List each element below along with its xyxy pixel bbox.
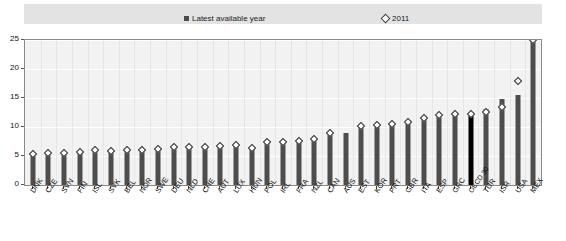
y-tick-label: 10 <box>10 122 19 130</box>
bar-ita <box>421 119 426 185</box>
bar-mex <box>531 40 536 185</box>
bar-isr <box>499 99 504 185</box>
bar-group <box>369 40 385 185</box>
bar-group <box>463 40 479 185</box>
x-axis-labels: DNKCZESVNFINISLSVKBELNORSWEDEUNLDCHEAUTL… <box>24 190 542 241</box>
bar-group <box>525 40 541 185</box>
bar-series-group <box>25 40 541 185</box>
bar-group <box>353 40 369 185</box>
bar-prt <box>390 126 395 185</box>
plot-area <box>24 39 542 186</box>
bar-group <box>181 40 197 185</box>
bar-group <box>56 40 72 185</box>
bar-group <box>400 40 416 185</box>
bar-group <box>447 40 463 185</box>
bar-group <box>510 40 526 185</box>
bar-can <box>327 135 332 185</box>
legend-item-2011: 2011 <box>382 11 409 25</box>
bar-esp <box>437 117 442 185</box>
bar-kor <box>374 127 379 185</box>
bar-group <box>338 40 354 185</box>
bar-oecd-30 <box>468 114 473 185</box>
bar-group <box>197 40 213 185</box>
legend-item-latest-available-year: Latest available year <box>184 11 265 25</box>
legend-square-marker-icon <box>184 16 189 21</box>
y-tick-label: 5 <box>15 151 19 159</box>
diamond-marker-usa <box>513 76 521 84</box>
bar-group <box>103 40 119 185</box>
y-tick-label: 25 <box>10 35 19 43</box>
legend-diamond-marker-icon <box>381 13 391 23</box>
bar-grc <box>452 115 457 185</box>
bar-group <box>385 40 401 185</box>
bar-group <box>322 40 338 185</box>
y-tick-label: 15 <box>10 93 19 101</box>
bar-group <box>275 40 291 185</box>
bar-group <box>416 40 432 185</box>
diamond-marker-aut <box>216 141 224 149</box>
bar-est <box>359 128 364 185</box>
bar-group <box>213 40 229 185</box>
legend-label: 2011 <box>392 14 409 23</box>
bar-usa <box>515 95 520 185</box>
y-axis: 0510152025 <box>0 34 24 192</box>
bar-group <box>291 40 307 185</box>
bar-group <box>25 40 41 185</box>
legend-label: Latest available year <box>192 14 265 23</box>
bar-group <box>150 40 166 185</box>
bar-group <box>494 40 510 185</box>
y-tick-label: 0 <box>15 180 19 188</box>
y-tick-label: 20 <box>10 64 19 72</box>
bar-irl <box>280 142 285 185</box>
chart-container: Latest available year 2011 0510152025 DN… <box>0 0 566 241</box>
bar-group <box>306 40 322 185</box>
bar-group <box>228 40 244 185</box>
bar-group <box>478 40 494 185</box>
bar-group <box>88 40 104 185</box>
chart-legend: Latest available year 2011 <box>24 4 542 24</box>
bar-group <box>119 40 135 185</box>
bar-group <box>166 40 182 185</box>
bar-gbr <box>406 124 411 185</box>
bar-group <box>72 40 88 185</box>
bar-group <box>134 40 150 185</box>
diamond-marker-cze <box>44 148 52 156</box>
bar-group <box>244 40 260 185</box>
bar-group <box>41 40 57 185</box>
bar-group <box>432 40 448 185</box>
bar-aus <box>343 133 348 185</box>
bar-group <box>260 40 276 185</box>
